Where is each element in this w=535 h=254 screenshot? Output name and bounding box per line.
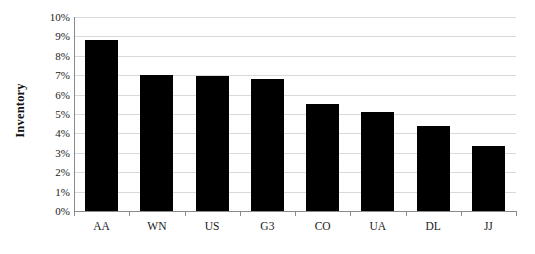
y-axis-tick-label: 3%	[55, 147, 70, 158]
y-axis-tick-label: 8%	[55, 50, 70, 61]
y-axis-tick-label: 2%	[55, 167, 70, 178]
y-axis-tick-label: 4%	[55, 128, 70, 139]
bar	[140, 75, 173, 211]
y-axis-tick-label: 6%	[55, 89, 70, 100]
bar	[417, 126, 450, 211]
y-axis-tick-label: 5%	[55, 109, 70, 120]
x-axis-tick-label: CO	[315, 219, 331, 233]
x-axis-tick	[74, 211, 75, 216]
x-axis-tick-label: G3	[260, 219, 274, 233]
y-axis-tick-labels: 0%1%2%3%4%5%6%7%8%9%10%	[36, 0, 72, 254]
bar	[472, 146, 505, 211]
x-axis-tick-label: AA	[93, 219, 110, 233]
x-axis-ticks	[74, 211, 516, 217]
x-axis-tick-label: DL	[425, 219, 440, 233]
x-axis-tick	[461, 211, 462, 216]
x-axis-tick-label: WN	[147, 219, 166, 233]
y-axis-tick-label: 9%	[55, 31, 70, 42]
x-axis-tick	[295, 211, 296, 216]
bar-chart: Inventory 0%1%2%3%4%5%6%7%8%9%10% AAWNUS…	[0, 0, 535, 254]
bar	[196, 76, 229, 211]
y-axis-tick-label: 10%	[50, 12, 70, 23]
x-axis-tick-label: US	[205, 219, 220, 233]
x-axis-tick	[406, 211, 407, 216]
y-axis-tick-label: 1%	[55, 186, 70, 197]
x-axis-tick	[185, 211, 186, 216]
bars-layer	[74, 17, 516, 211]
x-axis-tick	[240, 211, 241, 216]
y-axis-tick-label: 7%	[55, 70, 70, 81]
y-axis-title: Inventory	[0, 0, 40, 221]
x-axis-tick	[129, 211, 130, 216]
y-axis-line	[74, 17, 75, 212]
x-axis-tick-labels: AAWNUSG3COUADLJJ	[74, 219, 516, 239]
x-axis-tick-label: JJ	[484, 219, 493, 233]
y-axis-tick-label: 0%	[55, 206, 70, 217]
bar	[306, 104, 339, 211]
x-axis-tick-label: UA	[370, 219, 387, 233]
bar	[251, 79, 284, 211]
bar	[85, 40, 118, 211]
bar	[361, 112, 394, 211]
x-axis-tick	[516, 211, 517, 216]
y-axis-title-label: Inventory	[13, 83, 28, 138]
plot-area	[74, 17, 516, 211]
x-axis-tick	[350, 211, 351, 216]
